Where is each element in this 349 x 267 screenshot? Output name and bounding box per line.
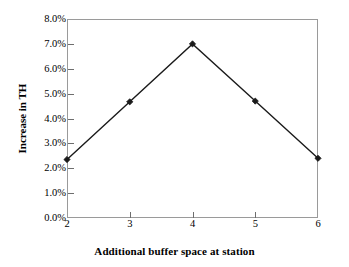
y-axis-tick-label: 1.0%: [44, 188, 66, 199]
x-axis-tick-label: 5: [253, 219, 258, 230]
x-axis-tick-label: 3: [127, 219, 132, 230]
x-axis-tick-label: 6: [315, 219, 320, 230]
series-markers: [64, 41, 321, 163]
y-axis-tick-label: 3.0%: [44, 138, 66, 149]
x-axis-title: Additional buffer space at station: [0, 245, 349, 257]
y-axis-tick-label: 4.0%: [44, 113, 66, 124]
chart-figure: 0.0%1.0%2.0%3.0%4.0%5.0%6.0%7.0%8.0% 234…: [0, 0, 349, 267]
data-series-line: [67, 19, 318, 218]
y-axis-title: Increase in TH: [14, 19, 30, 218]
y-axis-tick-label: 2.0%: [44, 163, 66, 174]
y-axis-tick-label: 8.0%: [44, 14, 66, 25]
y-axis-tick-label: 5.0%: [44, 88, 66, 99]
series-polyline: [67, 44, 318, 160]
x-axis-tick-label: 4: [190, 219, 195, 230]
y-axis-tick-label: 7.0%: [44, 39, 66, 50]
y-axis-tick-label: 6.0%: [44, 64, 66, 75]
y-axis-tick-label: 0.0%: [44, 213, 66, 224]
x-axis-tick-label: 2: [64, 219, 69, 230]
